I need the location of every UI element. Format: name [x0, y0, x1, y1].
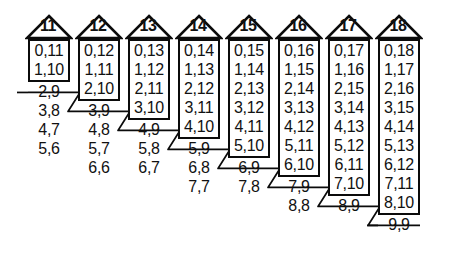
- boxed-pair-list: 0,171,162,153,144,135,126,117,10: [328, 39, 370, 196]
- pair-cell: 4,12: [280, 117, 318, 136]
- pair-cell: 5,6: [28, 139, 70, 158]
- pair-cell: 1,15: [280, 60, 318, 79]
- pair-cell: 5,10: [230, 136, 268, 155]
- pair-cell: 2,12: [180, 79, 218, 98]
- column-label: 17: [324, 18, 372, 34]
- unboxed-pair-list: 7,98,8: [278, 177, 320, 215]
- unboxed-pair-list: 3,94,85,76,6: [78, 101, 120, 177]
- pair-cell: 4,14: [380, 117, 418, 136]
- column-11: 110,111,102,93,84,75,6: [24, 0, 74, 271]
- pair-cell: 7,8: [228, 177, 270, 196]
- pair-cell: 0,14: [180, 41, 218, 60]
- pair-cell: 0,18: [380, 41, 418, 60]
- boxed-pair-list: 0,151,142,133,124,115,10: [228, 39, 270, 158]
- column-label: 16: [274, 18, 322, 34]
- pair-cell: 0,13: [130, 41, 168, 60]
- column-label: 14: [174, 18, 222, 34]
- pair-cell: 0,15: [230, 41, 268, 60]
- column-14: 140,141,132,123,114,105,96,87,7: [174, 0, 224, 271]
- pair-cell: 4,8: [78, 120, 120, 139]
- unboxed-pair-list: 5,96,87,7: [178, 139, 220, 196]
- struck-pair-cell: 5,9: [178, 139, 220, 158]
- pair-cell: 2,10: [80, 79, 118, 98]
- pair-cell: 3,13: [280, 98, 318, 117]
- pair-cell: 5,13: [380, 136, 418, 155]
- boxed-pair-list: 0,121,112,10: [78, 39, 120, 101]
- struck-pair-cell: 4,9: [128, 120, 170, 139]
- pair-cell: 1,17: [380, 60, 418, 79]
- pair-cell: 2,13: [230, 79, 268, 98]
- boxed-pair-list: 0,131,122,113,10: [128, 39, 170, 120]
- pair-cell: 6,7: [128, 158, 170, 177]
- pair-cell: 3,12: [230, 98, 268, 117]
- pair-cell: 6,6: [78, 158, 120, 177]
- boxed-pair-list: 0,161,152,143,134,125,116,10: [278, 39, 320, 177]
- boxed-pair-list: 0,181,172,163,154,145,136,127,118,10: [378, 39, 420, 215]
- pair-cell: 2,14: [280, 79, 318, 98]
- pair-cell: 2,11: [130, 79, 168, 98]
- pair-cell: 4,13: [330, 117, 368, 136]
- pair-cell: 3,15: [380, 98, 418, 117]
- pair-cell: 4,11: [230, 117, 268, 136]
- pair-cell: 8,10: [380, 193, 418, 212]
- pair-cell: 3,10: [130, 98, 168, 117]
- pair-cell: 7,7: [178, 177, 220, 196]
- pair-cell: 0,16: [280, 41, 318, 60]
- column-12: 120,121,112,103,94,85,76,6: [74, 0, 124, 271]
- pair-cell: 3,8: [28, 101, 70, 120]
- pair-cell: 1,10: [30, 60, 68, 79]
- column-label: 15: [224, 18, 272, 34]
- pair-cell: 5,7: [78, 139, 120, 158]
- column-16: 160,161,152,143,134,125,116,107,98,8: [274, 0, 324, 271]
- struck-pair-cell: 2,9: [28, 82, 70, 101]
- pair-cell: 0,12: [80, 41, 118, 60]
- struck-pair-cell: 3,9: [78, 101, 120, 120]
- column-label: 12: [74, 18, 122, 34]
- pair-cell: 8,8: [278, 196, 320, 215]
- column-label: 13: [124, 18, 172, 34]
- pair-cell: 1,14: [230, 60, 268, 79]
- struck-pair-cell: 6,9: [228, 158, 270, 177]
- pair-cell: 1,16: [330, 60, 368, 79]
- pair-cell: 6,11: [330, 155, 368, 174]
- pair-cell: 0,11: [30, 41, 68, 60]
- pair-cell: 3,14: [330, 98, 368, 117]
- pair-cell: 2,15: [330, 79, 368, 98]
- struck-pair-cell: 9,9: [378, 215, 420, 234]
- pair-cell: 7,11: [380, 174, 418, 193]
- unboxed-pair-list: 4,95,86,7: [128, 120, 170, 177]
- unboxed-pair-list: 6,97,8: [228, 158, 270, 196]
- pair-cell: 5,12: [330, 136, 368, 155]
- pair-cell: 7,10: [330, 174, 368, 193]
- unboxed-pair-list: 8,9: [328, 196, 370, 215]
- boxed-pair-list: 0,111,10: [28, 39, 70, 82]
- pair-cell: 6,8: [178, 158, 220, 177]
- diagram-canvas: 110,111,102,93,84,75,6120,121,112,103,94…: [0, 0, 463, 271]
- pair-cell: 1,12: [130, 60, 168, 79]
- pair-cell: 5,11: [280, 136, 318, 155]
- pair-cell: 3,11: [180, 98, 218, 117]
- column-18: 180,181,172,163,154,145,136,127,118,109,…: [374, 0, 424, 271]
- struck-pair-cell: 8,9: [328, 196, 370, 215]
- pair-cell: 2,16: [380, 79, 418, 98]
- struck-pair-cell: 7,9: [278, 177, 320, 196]
- unboxed-pair-list: 9,9: [378, 215, 420, 234]
- pair-cell: 6,12: [380, 155, 418, 174]
- boxed-pair-list: 0,141,132,123,114,10: [178, 39, 220, 139]
- column-17: 170,171,162,153,144,135,126,117,108,9: [324, 0, 374, 271]
- pair-cell: 4,7: [28, 120, 70, 139]
- pair-cell: 0,17: [330, 41, 368, 60]
- column-label: 11: [24, 18, 72, 34]
- column-label: 18: [374, 18, 422, 34]
- column-13: 130,131,122,113,104,95,86,7: [124, 0, 174, 271]
- unboxed-pair-list: 2,93,84,75,6: [28, 82, 70, 158]
- pair-cell: 1,13: [180, 60, 218, 79]
- pair-cell: 4,10: [180, 117, 218, 136]
- pair-cell: 1,11: [80, 60, 118, 79]
- column-15: 150,151,142,133,124,115,106,97,8: [224, 0, 274, 271]
- pair-cell: 6,10: [280, 155, 318, 174]
- pair-cell: 5,8: [128, 139, 170, 158]
